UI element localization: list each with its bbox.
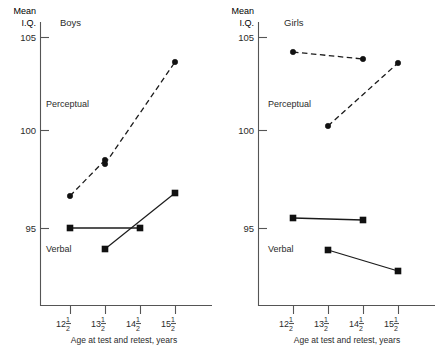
boys-perceptual-point-4 (172, 59, 177, 64)
boys-xtick-label-2-denominator: 2 (101, 325, 105, 332)
girls-verbal-point-2 (360, 217, 366, 223)
girls-verbal-point-1 (290, 215, 296, 221)
girls-xtick-label-3-numerator: 1 (359, 316, 363, 323)
boys-xtick-label-3: 14 1 2 (126, 316, 141, 332)
boys-verbal-point-2 (137, 225, 143, 231)
girls-xtick-label-4: 15 1 2 (384, 316, 399, 332)
boys-xtick-label-3-denominator: 2 (136, 325, 140, 332)
girls-xtick-label-3-number: 14 (349, 319, 359, 329)
chart-panel-girls: Mean I.Q. 105 100 95 12 1 2 13 1 2 (222, 0, 445, 350)
boys-perceptual-segment-1 (70, 160, 105, 196)
boys-ylabel-100: 100 (20, 125, 36, 136)
boys-xtick-label-4-denominator: 2 (171, 325, 175, 332)
boys-verbal-label: Verbal (46, 244, 72, 254)
girls-x-axis-title: Age at test and retest, years (294, 335, 400, 345)
boys-ylabel-105: 105 (20, 32, 36, 43)
boys-panel-title: Boys (60, 17, 81, 28)
girls-verbal-point-4 (395, 268, 401, 274)
girls-xtick-label-2-denominator: 2 (324, 325, 328, 332)
girls-y-axis-title-line2: I.Q. (239, 18, 254, 28)
girls-ylabel-100: 100 (238, 125, 254, 136)
boys-verbal-point-4 (172, 190, 178, 196)
girls-verbal-segment-1 (293, 218, 363, 220)
girls-verbal-point-3 (325, 247, 331, 253)
chart-panel-boys: Mean I.Q. 105 100 95 12 1 2 13 1 2 (0, 0, 222, 350)
girls-y-axis-title-line1: Mean (231, 6, 254, 16)
girls-xtick-label-1-denominator: 2 (289, 325, 293, 332)
boys-x-axis-title: Age at test and retest, years (71, 335, 177, 345)
boys-xtick-label-2: 13 1 2 (91, 316, 106, 332)
girls-xtick-label-1: 12 1 2 (279, 316, 294, 332)
boys-verbal-segment-2 (105, 193, 175, 249)
girls-verbal-label: Verbal (268, 244, 294, 254)
boys-xtick-label-3-numerator: 1 (136, 316, 140, 323)
boys-y-axis-title-line1: Mean (13, 6, 36, 16)
boys-xtick-label-3-number: 14 (126, 319, 136, 329)
boys-xtick-label-2-number: 13 (91, 319, 101, 329)
boys-chart-svg: Mean I.Q. 105 100 95 12 1 2 13 1 2 (0, 0, 222, 350)
boys-xtick-label-4-numerator: 1 (171, 316, 175, 323)
boys-verbal-point-3 (102, 246, 108, 252)
boys-xtick-label-2-numerator: 1 (101, 316, 105, 323)
boys-xtick-label-1-numerator: 1 (66, 316, 70, 323)
boys-verbal-point-1 (67, 225, 73, 231)
girls-xtick-label-1-number: 12 (279, 319, 289, 329)
boys-xtick-label-4: 15 1 2 (161, 316, 176, 332)
girls-xtick-label-3: 14 1 2 (349, 316, 364, 332)
girls-perceptual-segment-2 (328, 63, 398, 126)
boys-perceptual-label: Perceptual (46, 99, 89, 109)
girls-perceptual-segment-1 (293, 52, 363, 59)
girls-ylabel-95: 95 (243, 223, 254, 234)
girls-ylabel-105: 105 (238, 32, 254, 43)
girls-verbal-segment-3 (328, 250, 398, 271)
girls-xtick-label-4-denominator: 2 (394, 325, 398, 332)
boys-xtick-label-4-number: 15 (161, 319, 171, 329)
girls-perceptual-point-2 (360, 56, 365, 61)
girls-perceptual-point-4 (395, 60, 400, 65)
girls-xtick-label-3-denominator: 2 (359, 325, 363, 332)
boys-xtick-label-1: 12 1 2 (56, 316, 71, 332)
boys-perceptual-point-1 (67, 193, 72, 198)
girls-chart-svg: Mean I.Q. 105 100 95 12 1 2 13 1 2 (222, 0, 445, 350)
girls-perceptual-point-1 (290, 49, 295, 54)
girls-xtick-label-2-number: 13 (314, 319, 324, 329)
girls-xtick-label-4-numerator: 1 (394, 316, 398, 323)
girls-perceptual-label: Perceptual (268, 99, 311, 109)
boys-ylabel-95: 95 (25, 223, 36, 234)
girls-perceptual-point-3 (325, 123, 330, 128)
girls-xtick-label-1-numerator: 1 (289, 316, 293, 323)
boys-y-axis-title-line2: I.Q. (21, 18, 36, 28)
boys-perceptual-segment-2 (105, 62, 175, 164)
figure-root: Mean I.Q. 105 100 95 12 1 2 13 1 2 (0, 0, 445, 350)
girls-xtick-label-2-numerator: 1 (324, 316, 328, 323)
girls-panel-title: Girls (284, 17, 304, 28)
boys-xtick-label-1-denominator: 2 (66, 325, 70, 332)
girls-xtick-label-4-number: 15 (384, 319, 394, 329)
boys-xtick-label-1-number: 12 (56, 319, 66, 329)
girls-xtick-label-2: 13 1 2 (314, 316, 329, 332)
boys-perceptual-point-3 (102, 161, 107, 166)
